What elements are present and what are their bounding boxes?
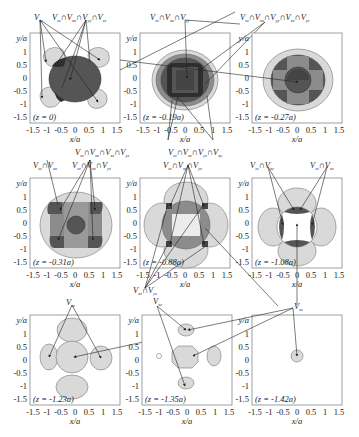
y-tick-label: -1.5: [236, 394, 249, 404]
x-tick-label: 0.5: [84, 270, 95, 280]
z-label: (z = -0.88a): [143, 257, 184, 267]
z-label: (z = 0): [33, 112, 56, 122]
x-tick-label: 1.5: [334, 270, 345, 280]
x-tick-label: -0.5: [54, 270, 67, 280]
x-tick-label: 0.5: [306, 125, 317, 135]
y-tick-label: -1: [242, 99, 249, 109]
z-label: (z = -1.42a): [255, 394, 296, 404]
x-tick-label: -1.5: [136, 125, 149, 135]
y-axis-label: y/a: [16, 315, 27, 325]
y-tick-label: -1: [20, 381, 27, 391]
x-axis-label: x/a: [291, 416, 302, 426]
x-tick-label: -0.5: [164, 270, 177, 280]
y-tick-label: -0.5: [124, 86, 137, 96]
y-tick-label: -1: [20, 244, 27, 254]
y-tick-label: -1: [130, 244, 137, 254]
annotation-a10: Vzz∩Vxz: [310, 160, 334, 171]
y-tick-label: 0: [23, 73, 27, 83]
figure-canvas: (z = 0) (z = -0.19a) (z = -0.27a): [0, 0, 359, 437]
y-tick-label: 0.5: [16, 60, 27, 70]
x-tick-label: 0.5: [194, 125, 205, 135]
x-tick-label: 1: [211, 270, 215, 280]
x-tick-label: -1.5: [248, 125, 261, 135]
y-tick-label: 0.5: [238, 60, 249, 70]
x-tick-label: 1.5: [334, 407, 345, 417]
y-tick-label: -1.5: [14, 257, 27, 267]
annotation-a7: Vzz∩Vxz∩Vyz: [72, 160, 111, 171]
y-tick-label: -0.5: [236, 368, 249, 378]
annotation-a9: Vzz∩Vxz: [250, 160, 274, 171]
y-tick-label: -1.5: [124, 112, 137, 122]
y-tick-label: 1: [135, 329, 139, 339]
x-tick-label: -1.5: [136, 270, 149, 280]
y-tick-label: 1: [245, 192, 249, 202]
y-tick-label: -1.5: [124, 257, 137, 267]
y-tick-label: -0.5: [126, 368, 139, 378]
x-tick-label: 0.5: [196, 407, 207, 417]
y-axis-label: y/a: [126, 33, 137, 43]
y-axis-label: y/a: [238, 33, 249, 43]
y-tick-label: 0.5: [16, 205, 27, 215]
x-tick-label: -1: [265, 407, 272, 417]
y-tick-label: -1: [20, 99, 27, 109]
y-tick-label: 1: [133, 192, 137, 202]
x-tick-label: -0.5: [276, 125, 289, 135]
y-tick-label: 1: [245, 329, 249, 339]
annotation-a5: Vzz∩Vxz∩Vyz∩Vxy: [168, 147, 222, 158]
annotation-a11: Vxz∩Vyz: [133, 285, 157, 296]
y-tick-label: 0.5: [128, 342, 139, 352]
y-tick-label: -0.5: [124, 231, 137, 241]
annotation-a12: Vxz: [66, 297, 75, 308]
y-tick-label: 0.5: [238, 205, 249, 215]
annotation-a3: Vzz∩Vxx∩Vyy∩Vxz∩Vyz: [240, 12, 310, 23]
x-tick-label: 1: [101, 270, 105, 280]
x-tick-label: -0.5: [276, 270, 289, 280]
y-tick-label: 0: [245, 73, 249, 83]
y-tick-label: 0.5: [238, 342, 249, 352]
y-tick-label: -0.5: [14, 231, 27, 241]
x-tick-label: 1: [101, 407, 105, 417]
z-label: (z = -0.31a): [33, 257, 74, 267]
x-tick-label: 1.5: [222, 125, 233, 135]
x-axis-label: x/a: [69, 279, 80, 289]
x-tick-label: -1.5: [248, 270, 261, 280]
y-axis-label: y/a: [126, 178, 137, 188]
x-tick-label: 0.5: [84, 407, 95, 417]
y-tick-label: -1: [242, 244, 249, 254]
panel-z-0.31a: (z = -0.31a): [30, 160, 120, 268]
y-tick-label: -0.5: [236, 231, 249, 241]
x-tick-label: 0.5: [306, 407, 317, 417]
y-tick-label: 0: [23, 355, 27, 365]
y-tick-label: -1: [130, 99, 137, 109]
x-tick-label: -1: [265, 125, 272, 135]
x-tick-label: -1.5: [26, 407, 39, 417]
y-tick-label: 1: [23, 329, 27, 339]
x-axis-label: x/a: [291, 134, 302, 144]
x-tick-label: -1: [43, 270, 50, 280]
y-tick-label: 0: [135, 355, 139, 365]
x-tick-label: 1: [323, 125, 327, 135]
y-tick-label: -1.5: [126, 394, 139, 404]
x-axis-label: x/a: [69, 134, 80, 144]
y-tick-label: 1: [23, 192, 27, 202]
x-tick-label: -0.5: [164, 125, 177, 135]
annotation-a0: Vzz: [34, 12, 43, 23]
x-tick-label: -0.5: [54, 125, 67, 135]
y-axis-label: y/a: [238, 178, 249, 188]
x-axis-label: x/a: [179, 134, 190, 144]
annotation-a2: Vzz∩Vxx∩Vyy: [150, 12, 189, 23]
x-axis-label: x/a: [181, 416, 192, 426]
z-label: (z = -1.35a): [145, 394, 186, 404]
annotation-a8: Vzz∩Vxz∩Vyz: [163, 160, 202, 171]
x-tick-label: -1.5: [248, 407, 261, 417]
y-tick-label: 0: [245, 355, 249, 365]
x-tick-label: -1.5: [138, 407, 151, 417]
y-tick-label: 0.5: [126, 205, 137, 215]
y-tick-label: -1.5: [236, 112, 249, 122]
x-tick-label: 1.5: [334, 125, 345, 135]
panel-z0: (z = 0): [30, 20, 120, 123]
y-tick-label: 1: [245, 47, 249, 57]
x-tick-label: 1: [101, 125, 105, 135]
y-tick-label: -1.5: [236, 257, 249, 267]
y-tick-label: 1: [133, 47, 137, 57]
